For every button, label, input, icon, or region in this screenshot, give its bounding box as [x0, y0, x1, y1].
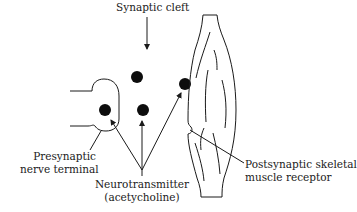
presynaptic-label: Presynaptic nerve terminal: [20, 150, 96, 176]
neurotransmitter-dots: [99, 71, 191, 116]
synaptic-cleft-text: Synaptic cleft: [116, 1, 189, 13]
neurotransmitter-label-line1: Neurotransmitter: [92, 178, 192, 191]
neurotransmitter-dot: [99, 104, 111, 116]
postsynaptic-label-line1: Postsynaptic skeletal: [245, 158, 357, 171]
neurotransmitter-label: Neurotransmitter (acetycholine): [92, 178, 192, 204]
postsynaptic-leader-line: [190, 130, 244, 163]
muscle-fiber: [188, 15, 236, 197]
postsynaptic-label: Postsynaptic skeletal muscle receptor: [245, 158, 357, 184]
presynaptic-leader-line: [90, 131, 101, 150]
neurotransmitter-dot: [131, 71, 143, 83]
presynaptic-terminal: [70, 79, 119, 131]
neurotransmitter-dot: [137, 104, 149, 116]
neurotransmitter-label-line2: (acetycholine): [92, 191, 192, 204]
postsynaptic-label-line2: muscle receptor: [245, 171, 357, 184]
synaptic-cleft-label: Synaptic cleft: [116, 1, 189, 14]
presynaptic-label-line1: Presynaptic: [20, 150, 96, 163]
presynaptic-label-line2: nerve terminal: [20, 163, 96, 176]
